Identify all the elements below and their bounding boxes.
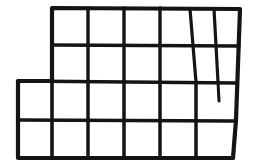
vertical-stub-partial-line <box>218 82 219 101</box>
partial-stub-line-group <box>218 82 219 101</box>
hand-drawn-grid-figure <box>0 0 255 168</box>
horizontal-line-row1-row2 <box>52 45 239 46</box>
figure-container <box>0 0 255 168</box>
